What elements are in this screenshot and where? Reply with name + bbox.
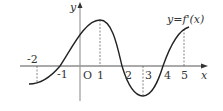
x-axis-label: x <box>201 69 208 82</box>
tick-label-4: 4 <box>164 69 171 82</box>
x-axis-arrow-icon <box>201 64 208 69</box>
tick-label-5: 5 <box>181 69 188 82</box>
curve-f-prime <box>29 20 189 96</box>
origin-label: O <box>83 69 92 82</box>
curve-label: y=f'(x) <box>166 13 204 26</box>
tick-label-2: 2 <box>125 69 132 82</box>
tick-label-neg2: -2 <box>27 53 38 66</box>
chart: y x O -2 -1 1 2 3 4 5 y=f'(x) <box>0 0 223 111</box>
tick-label-3: 3 <box>145 69 152 82</box>
tick-label-1: 1 <box>97 69 104 82</box>
y-axis-arrow-icon <box>78 2 83 8</box>
tick-label-neg1: -1 <box>57 68 68 81</box>
y-axis-label: y <box>69 1 77 14</box>
